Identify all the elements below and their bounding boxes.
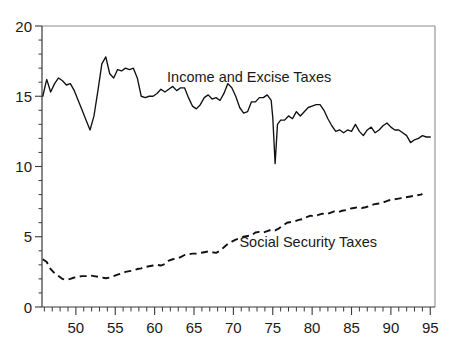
- x-tick-label: 60: [146, 319, 163, 336]
- chart-container: 05101520 50556065707580859095 Income and…: [0, 0, 459, 354]
- x-tick-label: 70: [225, 319, 242, 336]
- y-tick-label: 20: [15, 18, 32, 35]
- x-axis-tick-labels: 50556065707580859095: [68, 319, 439, 336]
- y-axis-tick-labels: 05101520: [15, 18, 32, 316]
- x-axis-major-ticks: [76, 307, 430, 315]
- x-tick-label: 65: [186, 319, 203, 336]
- x-tick-label: 95: [422, 319, 439, 336]
- x-tick-label: 85: [343, 319, 360, 336]
- y-tick-label: 15: [15, 88, 32, 105]
- annotation-social-security-taxes: Social Security Taxes: [239, 234, 377, 250]
- y-tick-label: 0: [24, 299, 32, 316]
- x-tick-label: 50: [68, 319, 85, 336]
- annotation-income-and-excise-taxes: Income and Excise Taxes: [167, 69, 331, 85]
- x-tick-label: 55: [107, 319, 124, 336]
- y-tick-label: 5: [24, 228, 32, 245]
- x-tick-label: 80: [304, 319, 321, 336]
- x-tick-label: 75: [264, 319, 281, 336]
- line-chart: 05101520 50556065707580859095 Income and…: [0, 0, 459, 354]
- y-tick-label: 10: [15, 158, 32, 175]
- x-tick-label: 90: [383, 319, 400, 336]
